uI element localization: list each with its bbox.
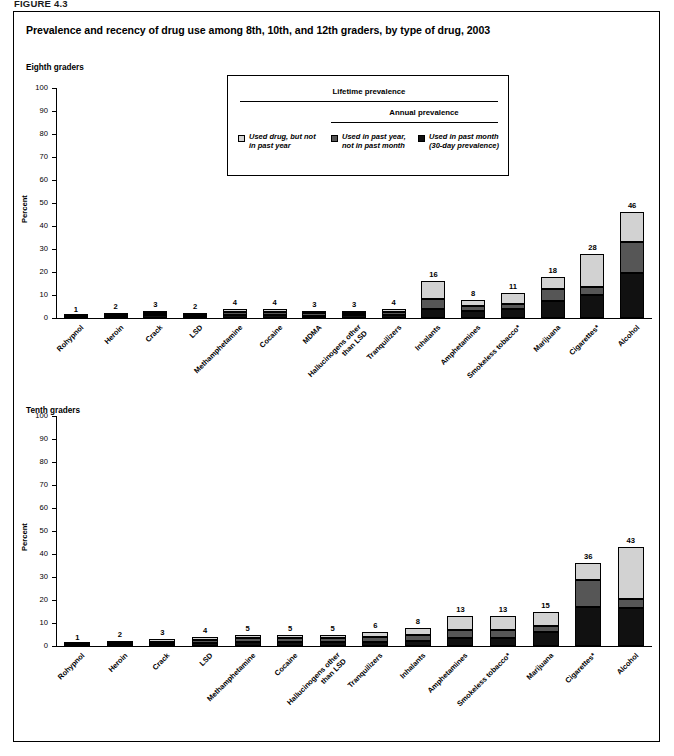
- bar-segment-s1: [421, 281, 445, 299]
- bar-segment-s1: [143, 311, 167, 313]
- bar-segment-s3: [263, 315, 287, 318]
- bar-segment-s3: [342, 315, 366, 318]
- bar-segment-s3: [382, 315, 406, 318]
- bar-tenth-8: [405, 416, 431, 646]
- y-tick-label: 50: [26, 198, 48, 207]
- bar-segment-s1: [575, 563, 601, 580]
- bar-value-label: 46: [608, 201, 656, 210]
- bar-segment-s1: [405, 628, 431, 635]
- y-axis-title: Percent: [20, 523, 29, 551]
- bar-eighth-2: [143, 88, 167, 318]
- y-tick: [52, 600, 56, 601]
- bar-segment-s2: [620, 242, 644, 273]
- bar-segment-s3: [501, 309, 525, 318]
- bar-segment-s3: [277, 642, 303, 646]
- bar-segment-s1: [149, 639, 175, 642]
- y-tick: [52, 531, 56, 532]
- bar-segment-s3: [183, 316, 207, 318]
- y-tick: [52, 180, 56, 181]
- bar-tenth-7: [362, 416, 388, 646]
- y-tick: [52, 439, 56, 440]
- bar-segment-s3: [533, 632, 559, 646]
- bar-segment-s2: [143, 313, 167, 315]
- bar-segment-s3: [235, 642, 261, 646]
- bar-segment-s3: [302, 316, 326, 318]
- y-tick: [52, 577, 56, 578]
- bar-tenth-4: [235, 416, 261, 646]
- bar-segment-s2: [405, 635, 431, 641]
- bar-segment-s1: [501, 293, 525, 305]
- bar-eighth-13: [580, 88, 604, 318]
- bar-eighth-3: [183, 88, 207, 318]
- bar-eighth-7: [342, 88, 366, 318]
- bar-segment-s3: [104, 316, 128, 318]
- bar-value-label: 4: [370, 298, 418, 307]
- bar-value-label: 18: [529, 266, 577, 275]
- y-tick-label: 20: [26, 595, 48, 604]
- bar-segment-s2: [223, 312, 247, 315]
- bar-eighth-8: [382, 88, 406, 318]
- bar-segment-s3: [107, 644, 133, 646]
- bar-segment-s1: [461, 300, 485, 306]
- bar-value-label: 15: [521, 601, 571, 610]
- bar-segment-s3: [461, 311, 485, 318]
- bar-segment-s2: [342, 313, 366, 315]
- bar-segment-s3: [580, 295, 604, 318]
- y-tick: [52, 416, 56, 417]
- y-tick-label: 100: [26, 83, 48, 92]
- bar-segment-s2: [541, 289, 565, 301]
- y-tick-label: 30: [26, 572, 48, 581]
- bar-segment-s2: [501, 304, 525, 308]
- y-tick-label: 100: [26, 411, 48, 420]
- bar-segment-s2: [533, 626, 559, 632]
- bar-eighth-10: [461, 88, 485, 318]
- bar-value-label: 36: [563, 552, 613, 561]
- y-tick-label: 80: [26, 129, 48, 138]
- y-tick: [52, 272, 56, 273]
- plot-area-eighth: 0102030405060708090100123244334168111828…: [56, 88, 652, 318]
- bar-segment-s2: [382, 312, 406, 315]
- y-tick-label: 10: [26, 618, 48, 627]
- bar-segment-s1: [447, 616, 473, 630]
- y-tick: [52, 88, 56, 89]
- y-tick-label: 60: [26, 503, 48, 512]
- bar-segment-s2: [447, 630, 473, 638]
- bar-segment-s1: [362, 632, 388, 637]
- bar-segment-s2: [618, 599, 644, 608]
- bar-segment-s1: [320, 635, 346, 639]
- bar-segment-s2: [320, 638, 346, 642]
- bar-segment-s1: [541, 277, 565, 290]
- bar-segment-s2: [362, 637, 388, 642]
- bar-segment-s3: [541, 301, 565, 318]
- bar-segment-s1: [64, 642, 90, 644]
- bar-segment-s1: [618, 547, 644, 599]
- bar-segment-s2: [575, 580, 601, 607]
- bar-segment-s2: [192, 640, 218, 643]
- bar-segment-s3: [223, 315, 247, 318]
- y-tick-label: 10: [26, 290, 48, 299]
- y-tick: [52, 226, 56, 227]
- y-axis-title: Percent: [20, 195, 29, 223]
- y-tick-label: 30: [26, 244, 48, 253]
- bar-value-label: 28: [568, 243, 616, 252]
- bar-eighth-5: [263, 88, 287, 318]
- y-tick: [52, 249, 56, 250]
- bar-segment-s1: [183, 313, 207, 315]
- bar-segment-s1: [382, 309, 406, 312]
- bar-segment-s1: [107, 641, 133, 643]
- bar-segment-s1: [277, 635, 303, 639]
- bar-value-label: 16: [409, 270, 457, 279]
- bar-segment-s3: [575, 607, 601, 646]
- y-tick-label: 20: [26, 267, 48, 276]
- bar-eighth-6: [302, 88, 326, 318]
- y-tick-label: 50: [26, 526, 48, 535]
- y-tick: [52, 646, 56, 647]
- bar-segment-s1: [302, 311, 326, 313]
- page-title: Prevalence and recency of drug use among…: [26, 24, 490, 36]
- bar-tenth-5: [277, 416, 303, 646]
- y-tick: [52, 554, 56, 555]
- y-tick-label: 70: [26, 152, 48, 161]
- bar-segment-s3: [447, 638, 473, 646]
- y-tick: [52, 462, 56, 463]
- bar-tenth-6: [320, 416, 346, 646]
